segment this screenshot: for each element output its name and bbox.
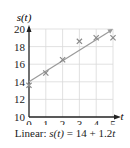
svg-text:20: 20 [14,23,26,35]
svg-text:5: 5 [110,118,116,125]
svg-text:18: 18 [14,41,26,53]
svg-text:14: 14 [14,76,26,88]
caption-function: s(t) [49,127,64,139]
svg-text:3: 3 [77,118,83,125]
caption-prefix: Linear: [15,127,50,139]
y-axis-label: s(t) [17,11,32,24]
svg-text:10: 10 [14,111,26,123]
svg-text:12: 12 [14,93,25,105]
svg-text:2: 2 [60,118,66,125]
scatter-chart: 101214161820012345 s(t) t [0,0,130,125]
fit-line [29,29,113,82]
axes [27,25,122,120]
svg-text:16: 16 [14,58,26,70]
caption-variable: t [112,127,115,139]
caption-rhs: = 14 + 1.2 [64,127,112,139]
svg-text:0: 0 [26,118,32,125]
data-points [26,35,115,88]
grid-lines [29,29,113,117]
equation-caption: Linear: s(t) = 14 + 1.2t [0,127,130,139]
x-axis-label: t [120,110,124,122]
svg-text:4: 4 [93,118,99,125]
svg-text:1: 1 [43,118,49,125]
